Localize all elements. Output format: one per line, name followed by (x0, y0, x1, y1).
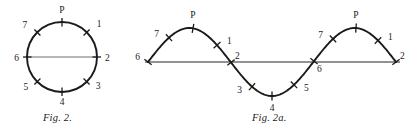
wave-label-1-second: 1 (388, 32, 393, 42)
wave-label-3: 3 (237, 85, 242, 95)
circle-label-7: 7 (23, 20, 28, 30)
wave-label-P-second: P (353, 10, 358, 20)
circle-label-1: 1 (97, 19, 102, 29)
wave-label-6-start: 6 (135, 52, 140, 62)
figure-caption-fig-2a: Fig. 2a. (252, 112, 287, 123)
figure-plate: P1234567 67P1234567P12 Fig. 2. Fig. 2a. (0, 0, 405, 133)
wave-label-7-second: 7 (318, 30, 323, 40)
wave-label-2-end: 2 (400, 51, 405, 61)
wave-label-P-first: P (190, 10, 195, 20)
circle-label-2: 2 (105, 53, 110, 63)
circle-label-3: 3 (96, 81, 101, 91)
figure-caption-fig-2: Fig. 2. (43, 112, 72, 123)
circle-label-P: P (59, 5, 64, 15)
wave-tick-P-first (192, 24, 194, 33)
wave-label-6-mid: 6 (317, 64, 322, 74)
fig-2a-sine-wave-diagram: 67P1234567P12 (135, 10, 405, 113)
circle-label-4: 4 (60, 97, 65, 107)
wave-label-2-first: 2 (235, 51, 240, 61)
wave-label-1-first: 1 (227, 36, 232, 46)
fig-2-circle-diagram: P1234567 (14, 5, 110, 107)
wave-tick-P-second (356, 23, 357, 32)
circle-label-6: 6 (14, 53, 19, 63)
wave-label-7-first: 7 (154, 29, 159, 39)
circle-label-5: 5 (24, 82, 29, 92)
wave-label-5: 5 (304, 83, 309, 93)
